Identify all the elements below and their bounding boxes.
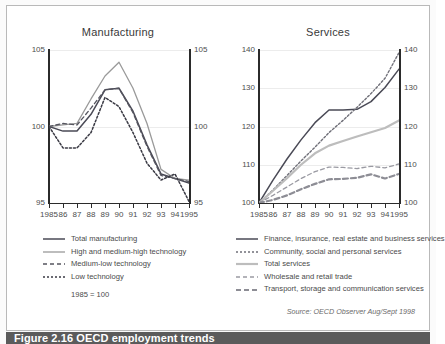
legend-item: Transport, storage and communication ser… — [236, 283, 442, 296]
y-tick-label: 130 — [404, 83, 417, 92]
x-tick-mark — [385, 204, 386, 208]
x-tick-mark — [161, 204, 162, 208]
plot-area-services — [259, 50, 399, 203]
x-tick-label: 88 — [87, 210, 96, 219]
series-line — [259, 53, 399, 203]
y-axis-right-manufacturing — [189, 49, 191, 204]
x-tick-label: 1985 — [250, 210, 268, 219]
legend-swatch-icon — [43, 247, 65, 257]
y-tick-label: 100 — [404, 198, 417, 207]
x-tick-mark — [63, 204, 64, 208]
legend-item: Total services — [236, 258, 442, 271]
y-tick-label: 100 — [194, 122, 207, 131]
chart-panel-manufacturing: Manufacturing 95100105 95100105 19858687… — [15, 24, 221, 222]
x-tick-mark — [105, 204, 106, 208]
chart-title-services: Services — [225, 26, 431, 38]
x-tick-label: 88 — [297, 210, 306, 219]
series-line — [49, 88, 189, 183]
x-tick-label: 87 — [283, 210, 292, 219]
x-tick-mark — [189, 204, 190, 208]
legend-services: Finance, insurance, real estate and busi… — [236, 233, 442, 296]
legend-item: Community, social and personal services — [236, 246, 442, 259]
legend-item: Low technology — [43, 271, 233, 284]
legend-label: Finance, insurance, real estate and busi… — [264, 233, 445, 246]
legend-swatch-icon — [236, 285, 258, 295]
plot-area-manufacturing — [49, 50, 189, 203]
y-tick-label: 100 — [19, 122, 45, 131]
x-tick-label: 90 — [115, 210, 124, 219]
figure-frame: Manufacturing 95100105 95100105 19858687… — [6, 5, 430, 331]
y-tick-label: 120 — [229, 122, 255, 131]
x-tick-mark — [133, 204, 134, 208]
x-tick-label: 94 — [381, 210, 390, 219]
x-tick-mark — [301, 204, 302, 208]
y-tick-label: 110 — [404, 160, 417, 169]
legend-swatch-icon — [236, 272, 258, 282]
legend-item: High and medium-high technology — [43, 246, 233, 259]
x-tick-mark — [343, 204, 344, 208]
source-note: Source: OECD Observer Aug/Sept 1998 — [287, 307, 415, 316]
legend-swatch-icon — [43, 234, 65, 244]
x-tick-label: 1995 — [390, 210, 408, 219]
chart-title-manufacturing: Manufacturing — [15, 26, 221, 38]
series-line — [49, 62, 189, 180]
y-tick-label: 95 — [19, 198, 45, 207]
legend-item: Total manufacturing — [43, 233, 233, 246]
x-tick-mark — [77, 204, 78, 208]
x-tick-label: 87 — [73, 210, 82, 219]
chart-panel-services: Services 100110120130140 100110120130140… — [225, 24, 431, 222]
x-tick-mark — [399, 204, 400, 208]
legend-item: Finance, insurance, real estate and busi… — [236, 233, 442, 246]
y-tick-label: 100 — [229, 198, 255, 207]
series-line — [49, 88, 189, 181]
x-tick-label: 89 — [311, 210, 320, 219]
legend-label: Transport, storage and communication ser… — [264, 283, 424, 296]
x-tick-mark — [287, 204, 288, 208]
legend-label: Total services — [264, 258, 310, 271]
figure-caption: Figure 2.16 OECD employment trends — [14, 332, 215, 344]
legend-label: Wholesale and retail trade — [264, 271, 352, 284]
x-tick-label: 91 — [129, 210, 138, 219]
legend-swatch-icon — [43, 272, 65, 282]
y-tick-label: 140 — [229, 45, 255, 54]
x-tick-mark — [175, 204, 176, 208]
x-tick-mark — [147, 204, 148, 208]
x-tick-label: 92 — [143, 210, 152, 219]
series-line — [49, 97, 189, 201]
figure-caption-bar: Figure 2.16 OECD employment trends — [6, 332, 430, 344]
legend-swatch-icon — [43, 259, 65, 269]
x-tick-label: 86 — [59, 210, 68, 219]
y-axis-right-services — [399, 49, 401, 204]
legend-manufacturing: Total manufacturingHigh and medium-high … — [43, 233, 233, 299]
x-tick-label: 89 — [101, 210, 110, 219]
series-line — [259, 174, 399, 203]
y-tick-label: 110 — [229, 160, 255, 169]
x-tick-label: 91 — [339, 210, 348, 219]
y-tick-label: 120 — [404, 122, 417, 131]
y-tick-label: 130 — [229, 83, 255, 92]
x-tick-label: 94 — [171, 210, 180, 219]
legend-label: Medium-low technology — [71, 258, 151, 271]
x-tick-label: 1995 — [180, 210, 198, 219]
x-tick-label: 93 — [157, 210, 166, 219]
x-tick-label: 92 — [353, 210, 362, 219]
x-tick-mark — [357, 204, 358, 208]
x-tick-mark — [49, 204, 50, 208]
legend-swatch-icon — [236, 234, 258, 244]
y-tick-label: 140 — [404, 45, 417, 54]
x-tick-label: 1985 — [40, 210, 58, 219]
x-tick-mark — [315, 204, 316, 208]
x-tick-mark — [371, 204, 372, 208]
legend-base-note: 1985 = 100 — [43, 290, 233, 299]
legend-swatch-icon — [236, 259, 258, 269]
x-tick-mark — [259, 204, 260, 208]
legend-label: Total manufacturing — [71, 233, 137, 246]
x-tick-mark — [273, 204, 274, 208]
x-tick-mark — [91, 204, 92, 208]
legend-label: Low technology — [71, 271, 124, 284]
y-tick-label: 105 — [194, 45, 207, 54]
x-tick-label: 93 — [367, 210, 376, 219]
x-tick-mark — [329, 204, 330, 208]
legend-label: Community, social and personal services — [264, 246, 401, 259]
